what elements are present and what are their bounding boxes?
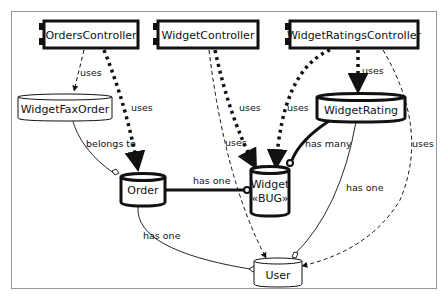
label-has-one-order-user: has one	[143, 230, 181, 241]
node-widgetrating[interactable]: WidgetRating	[317, 94, 405, 123]
node-label: WidgetRating	[324, 104, 398, 117]
label-uses-fax: uses	[80, 67, 102, 78]
node-widgetcontroller[interactable]: WidgetController	[153, 21, 258, 48]
node-label: WidgetFaxOrder	[21, 103, 110, 116]
node-order[interactable]: Order	[121, 174, 165, 207]
label-belongs-to: belongs to	[86, 138, 136, 149]
label-uses-widgetrating: uses	[362, 65, 384, 76]
label-uses-widget: uses	[239, 102, 261, 113]
node-label: User	[265, 269, 291, 282]
node-orderscontroller[interactable]: OrdersController	[39, 21, 138, 48]
node-label: WidgetController	[162, 29, 255, 42]
label-has-one-order-widget: has one	[193, 175, 231, 186]
label-uses-order: uses	[131, 102, 153, 113]
node-widgetratingscontroller[interactable]: WidgetRatingsController	[285, 21, 421, 48]
node-user[interactable]: User	[254, 258, 302, 287]
label-uses-user-wc: uses	[225, 137, 247, 148]
label-has-many: has many	[305, 138, 352, 149]
node-label: OrdersController	[45, 29, 137, 42]
label-uses-ratings-user: uses	[412, 138, 434, 149]
has-many-circle-icon	[287, 160, 293, 166]
node-label: WidgetRatingsController	[287, 29, 422, 42]
node-label: Order	[127, 184, 159, 197]
composition-circle-icon	[244, 187, 250, 193]
diagram-frame	[12, 12, 437, 289]
class-diagram: uses uses belongs to uses uses uses uses…	[0, 0, 448, 306]
node-widget[interactable]: Widget «BUG»	[251, 167, 290, 217]
node-widgetfaxorder[interactable]: WidgetFaxOrder	[18, 94, 112, 121]
node-label: Widget	[251, 178, 290, 191]
label-has-one-rating-user: has one	[346, 182, 384, 193]
node-stereotype: «BUG»	[251, 192, 288, 205]
label-uses-ratings-widget: uses	[287, 102, 309, 113]
